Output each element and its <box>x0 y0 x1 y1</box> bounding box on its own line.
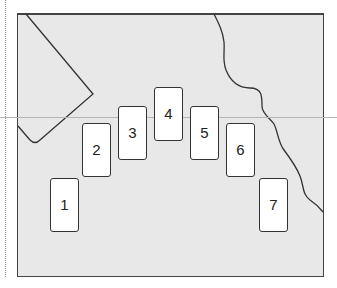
card-label: 3 <box>128 124 136 141</box>
card-3: 3 <box>118 106 147 160</box>
card-label: 1 <box>60 196 68 213</box>
card-5: 5 <box>190 106 219 160</box>
card-2: 2 <box>82 123 111 177</box>
card-7: 7 <box>259 178 288 232</box>
card-4: 4 <box>154 87 183 141</box>
card-6: 6 <box>226 123 255 177</box>
card-label: 5 <box>200 124 208 141</box>
card-1: 1 <box>50 178 79 232</box>
card-label: 4 <box>164 105 172 122</box>
shapes-overlay <box>0 0 337 288</box>
card-label: 2 <box>92 141 100 158</box>
card-label: 6 <box>236 141 244 158</box>
card-label: 7 <box>269 196 277 213</box>
